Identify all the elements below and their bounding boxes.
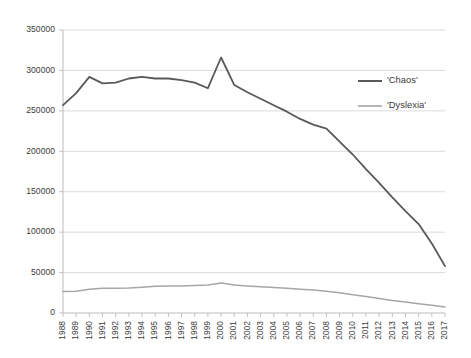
x-tick-label: 2015 [413,321,423,340]
y-tick-label: 50000 [31,267,55,277]
x-tick-label: 2004 [268,321,278,340]
y-tick-label: 300000 [26,65,55,75]
y-tick-label: 100000 [26,226,55,236]
x-tick-label: 1990 [84,321,94,340]
y-tick-labels: 0500001000001500002000002500003000003500… [26,24,55,317]
x-tick-label: 1996 [163,321,173,340]
data-series-group [63,57,445,306]
series-line-dyslexia [63,283,445,307]
x-tick-label: 2008 [321,321,331,340]
x-tick-label: 1988 [57,321,67,340]
x-tick-label: 2000 [215,321,225,340]
x-tick-label: 1997 [176,321,186,340]
x-tick-label: 2012 [373,321,383,340]
x-tick-label: 1994 [136,321,146,340]
chart-canvas: 0500001000001500002000002500003000003500… [0,0,471,358]
x-tick-label: 1995 [149,321,159,340]
x-tick-label: 2002 [242,321,252,340]
x-tick-label: 1998 [189,321,199,340]
x-tick-label: 1989 [70,321,80,340]
line-chart: 0500001000001500002000002500003000003500… [0,0,471,358]
x-tick-label: 2016 [426,321,436,340]
x-tick-label: 1993 [123,321,133,340]
x-tick-labels: 1988198919901991199219931994199519961997… [57,321,449,340]
x-axis [63,313,445,317]
y-tick-label: 0 [50,307,55,317]
series-line-chaos [63,57,445,266]
y-tick-label: 350000 [26,24,55,34]
chart-legend: 'Chaos''Dyslexia' [358,74,426,110]
x-tick-label: 2003 [255,321,265,340]
x-tick-label: 1991 [97,321,107,340]
y-tick-label: 250000 [26,105,55,115]
x-tick-label: 2001 [228,321,238,340]
x-tick-label: 2007 [307,321,317,340]
gridlines-group [63,30,445,273]
x-tick-label: 2017 [439,321,449,340]
y-axis [59,30,63,313]
legend-label: 'Dyslexia' [387,99,426,110]
x-tick-label: 1992 [110,321,120,340]
y-tick-label: 150000 [26,186,55,196]
x-tick-label: 2010 [347,321,357,340]
x-tick-label: 2005 [281,321,291,340]
x-tick-label: 1999 [202,321,212,340]
legend-label: 'Chaos' [387,74,418,85]
x-tick-label: 2009 [334,321,344,340]
y-tick-label: 200000 [26,146,55,156]
x-tick-label: 2014 [400,321,410,340]
x-tick-label: 2006 [294,321,304,340]
x-tick-label: 2013 [387,321,397,340]
x-tick-label: 2011 [360,321,370,339]
